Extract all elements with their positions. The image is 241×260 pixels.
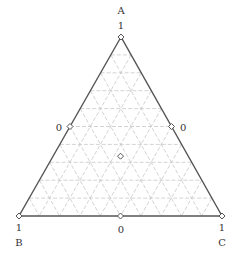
- diamond-marker-a-vertex: [118, 34, 124, 40]
- vertex-tick-b: 1: [16, 222, 22, 233]
- grid-line: [80, 91, 151, 216]
- grid-line: [202, 198, 212, 216]
- edge-tick-left: 0: [56, 122, 62, 133]
- diamond-marker-c-vertex: [219, 213, 225, 219]
- grid-lines: [29, 55, 212, 216]
- grid-line: [39, 55, 131, 216]
- grid-line: [29, 198, 39, 216]
- diamond-marker-ab-mid: [67, 124, 73, 130]
- vertex-tick-a: 1: [118, 20, 124, 31]
- ternary-diagram: A 1 1 B 1 C 0 0 0: [0, 0, 241, 260]
- diamond-marker-ac-mid: [169, 124, 175, 130]
- grid-line: [70, 127, 121, 217]
- axis-label-a: A: [116, 5, 125, 16]
- edge-tick-right: 0: [180, 122, 186, 133]
- diamond-marker-b-vertex: [16, 213, 22, 219]
- grid-line: [111, 55, 202, 216]
- diamond-marker-centroid: [118, 153, 124, 159]
- edge-tick-bottom: 0: [118, 224, 124, 235]
- grid-line: [121, 127, 172, 217]
- diamond-marker-bc-mid: [118, 213, 124, 219]
- vertex-tick-c: 1: [219, 222, 225, 233]
- axis-label-c: C: [218, 237, 226, 248]
- axis-label-b: B: [15, 237, 22, 248]
- grid-line: [90, 91, 161, 216]
